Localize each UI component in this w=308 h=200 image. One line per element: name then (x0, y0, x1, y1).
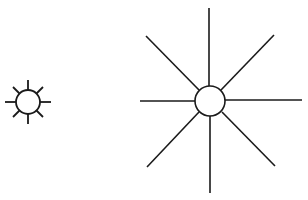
diagram-canvas (0, 0, 308, 200)
small-ray-se (37, 111, 44, 118)
small-ray-ne (37, 87, 44, 94)
small-ray-sw (13, 111, 20, 118)
small-sun-circle (16, 90, 40, 114)
large-ray-se (222, 112, 275, 166)
large-sun-figure (140, 8, 302, 193)
large-ray-sw (147, 112, 199, 167)
large-ray-nw (146, 36, 199, 90)
small-ray-nw (13, 87, 20, 94)
large-ray-ne (221, 35, 274, 90)
large-sun-circle (195, 86, 225, 116)
small-sun-figure (5, 80, 51, 124)
